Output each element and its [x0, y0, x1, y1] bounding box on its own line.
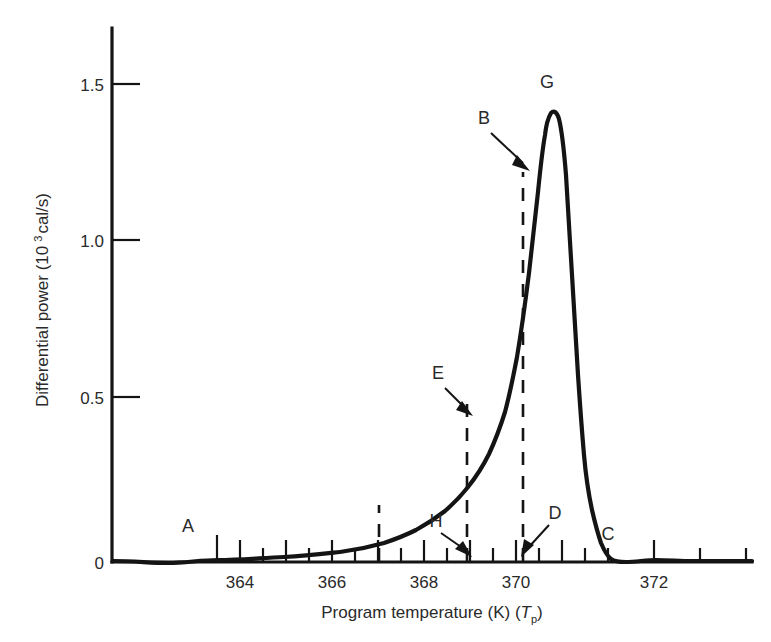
- x-tick-label-372: 372: [640, 573, 668, 592]
- annotation-E: E: [432, 363, 473, 416]
- y-axis-title: Differential power (103cal/s): [32, 193, 52, 407]
- y-tick-label-0.5: 0.5: [80, 389, 104, 408]
- annotation-H: H: [430, 511, 473, 557]
- annotation-label-G: G: [540, 72, 554, 92]
- annotation-A: A: [182, 516, 194, 536]
- x-axis-title: Program temperature (K) (Tp): [321, 603, 543, 625]
- y-axis-title-group: Differential power (103cal/s): [32, 193, 52, 407]
- x-tick-label-366: 366: [318, 573, 346, 592]
- annotation-label-D: D: [549, 503, 562, 523]
- annotation-G: G: [540, 72, 554, 92]
- y-tick-label-1.0: 1.0: [80, 232, 104, 251]
- y-axis-tick-labels: 1.5 1.0 0.5 0: [80, 76, 104, 573]
- annotation-label-A: A: [182, 516, 194, 536]
- annotation-B: B: [478, 108, 530, 171]
- dsc-thermogram-figure: 1.5 1.0 0.5 0: [0, 0, 771, 642]
- annotation-D: D: [521, 503, 562, 557]
- y-axis-title-superscript: 3: [32, 236, 44, 242]
- dsc-curve-group: [113, 112, 752, 563]
- y-axis-ticks: [113, 84, 140, 397]
- annotation-label-H: H: [430, 511, 443, 531]
- annotation-label-B: B: [478, 108, 490, 128]
- y-tick-label-0: 0: [95, 554, 104, 573]
- chart-svg: 1.5 1.0 0.5 0: [0, 0, 771, 642]
- x-tick-label-370: 370: [502, 573, 530, 592]
- y-axis-title-main: Differential power (10: [33, 246, 52, 407]
- y-axis-title-tail: cal/s): [33, 193, 52, 234]
- x-axis-title-group: Program temperature (K) (Tp): [321, 603, 543, 625]
- x-axis-title-main: Program temperature (K) (: [321, 603, 521, 622]
- x-axis-title-close: ): [537, 603, 543, 622]
- annotation-label-E: E: [432, 363, 444, 383]
- annotation-arrowhead-B: [512, 155, 530, 171]
- x-tick-label-364: 364: [226, 573, 254, 592]
- annotation-arrowhead-E: [456, 401, 473, 416]
- x-tick-label-368: 368: [410, 573, 438, 592]
- annotation-C: C: [602, 524, 615, 544]
- annotation-arrowhead-D: [521, 539, 534, 557]
- axes: [112, 28, 752, 562]
- y-tick-label-1.5: 1.5: [80, 76, 104, 95]
- annotation-label-C: C: [602, 524, 615, 544]
- x-axis-tick-labels: 364 366 368 370 372: [226, 573, 668, 592]
- dsc-curve: [113, 112, 752, 563]
